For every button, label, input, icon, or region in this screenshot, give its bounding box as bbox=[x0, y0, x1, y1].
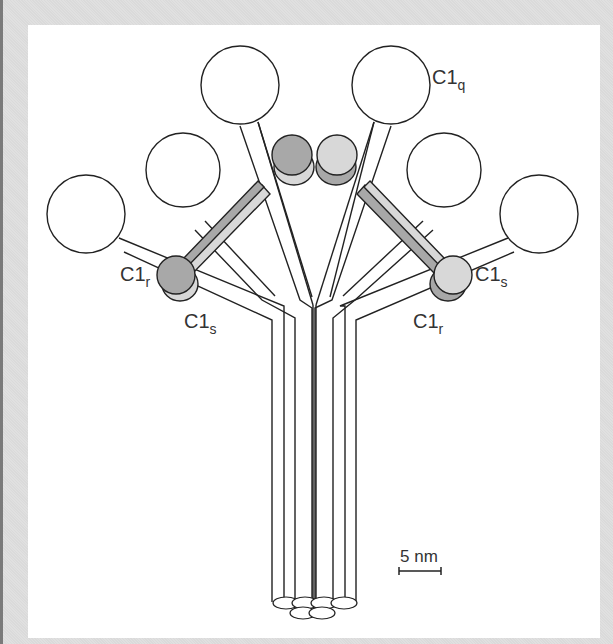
head-mid-right bbox=[407, 133, 481, 207]
figure-frame: C1q C1r C1s C1s C1r 5 nm bbox=[0, 0, 613, 644]
label-c1s-right: C1s bbox=[475, 263, 508, 290]
head-top-left bbox=[201, 46, 279, 124]
c1q-heads bbox=[47, 46, 578, 253]
head-outer-left bbox=[47, 175, 125, 253]
scale-bar bbox=[399, 567, 441, 575]
head-outer-right bbox=[500, 175, 578, 253]
head-top-right bbox=[352, 46, 430, 124]
stalk-ends bbox=[273, 597, 357, 619]
scale-bar-label: 5 nm bbox=[400, 547, 438, 566]
c1-complex-diagram: C1q C1r C1s C1s C1r 5 nm bbox=[0, 0, 613, 644]
head-mid-left bbox=[146, 133, 220, 207]
label-c1r-right: C1r bbox=[413, 310, 444, 337]
top-central-pair bbox=[272, 135, 357, 185]
label-c1q: C1q bbox=[432, 66, 465, 93]
